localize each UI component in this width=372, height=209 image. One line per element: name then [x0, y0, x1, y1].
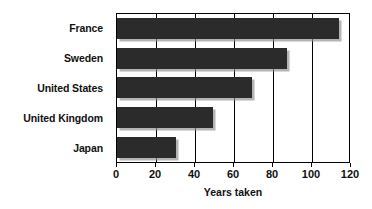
- table-row: [117, 18, 349, 39]
- category-label-japan: Japan: [73, 143, 110, 154]
- category-label-united-kingdom: United Kingdom: [23, 113, 110, 124]
- tick-mark-100: [311, 163, 312, 167]
- category-label-sweden: Sweden: [64, 53, 110, 64]
- bar-chart-figure: France Sweden United States United Kingd…: [0, 0, 372, 209]
- tick-label-80: 80: [266, 168, 278, 180]
- bars-layer: [117, 14, 349, 162]
- tick-mark-80: [272, 163, 273, 167]
- tick-mark-40: [194, 163, 195, 167]
- plot-area: [116, 13, 350, 163]
- tick-label-60: 60: [227, 168, 239, 180]
- tick-mark-120: [350, 163, 351, 167]
- category-label-france: France: [69, 23, 110, 34]
- tick-mark-0: [116, 163, 117, 167]
- tick-label-40: 40: [188, 168, 200, 180]
- value-axis: 020406080100120: [116, 163, 350, 183]
- tick-label-120: 120: [341, 168, 359, 180]
- bar-france[interactable]: [117, 18, 339, 39]
- tick-mark-60: [233, 163, 234, 167]
- table-row: [117, 107, 349, 128]
- bar-united-states[interactable]: [117, 77, 252, 98]
- bar-sweden[interactable]: [117, 48, 287, 69]
- category-axis: France Sweden United States United Kingd…: [0, 13, 110, 163]
- tick-label-20: 20: [149, 168, 161, 180]
- bar-united-kingdom[interactable]: [117, 107, 213, 128]
- bar-japan[interactable]: [117, 137, 176, 158]
- tick-label-100: 100: [302, 168, 320, 180]
- table-row: [117, 137, 349, 158]
- tick-mark-20: [155, 163, 156, 167]
- category-label-united-states: United States: [37, 83, 110, 94]
- table-row: [117, 77, 349, 98]
- tick-label-0: 0: [113, 168, 119, 180]
- table-row: [117, 48, 349, 69]
- x-axis-title: Years taken: [116, 186, 350, 198]
